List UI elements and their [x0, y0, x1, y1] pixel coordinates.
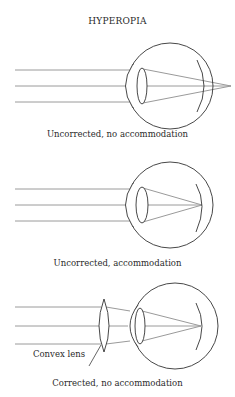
caption-panel-3: Corrected, no accommodation [0, 378, 235, 388]
caption-panel-2: Uncorrected, accommodation [0, 258, 235, 268]
panel-uncorrected-no-accommodation [15, 43, 231, 129]
convex-lens [89, 299, 109, 366]
panel-uncorrected-accommodation [15, 162, 213, 248]
caption-panel-1: Uncorrected, no accommodation [0, 129, 235, 139]
hyperopia-diagrams [0, 0, 235, 397]
convex-lens-label: Convex lens [33, 349, 85, 359]
incoming-rays [15, 69, 231, 103]
